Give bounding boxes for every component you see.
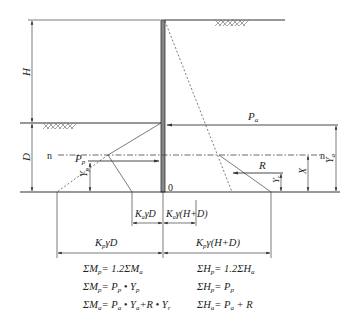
dimension-kp-gamma-hd: Kpγ(H+D) xyxy=(164,237,270,253)
dimension-D: D xyxy=(20,124,32,191)
passive-pressure-diagram-left xyxy=(57,123,161,192)
label-ka-gamma-hd: Kaγ(H+D) xyxy=(165,208,208,220)
dimension-Ya: Ya xyxy=(324,126,337,191)
n-n-line: n n xyxy=(47,150,325,161)
label-kp-gamma-hd: Kpγ(H+D) xyxy=(195,237,240,250)
dimension-ka-gamma-d: KaγD xyxy=(133,208,162,223)
label-Ya: Ya xyxy=(324,153,337,163)
label-Yr: Yr xyxy=(271,175,282,183)
label-kp-gamma-d: KpγD xyxy=(94,237,118,250)
equation-horizontal-3: ΣHa= Pa + R xyxy=(196,299,253,312)
sheet-pile-diagram: H D n n Pa Ya X Pp xyxy=(0,0,358,321)
equation-moment-3: ΣMa= Pa • Ya+R • Yr xyxy=(82,299,171,312)
force-R: R xyxy=(233,159,283,173)
label-origin: 0 xyxy=(168,182,173,193)
dimension-kp-gamma-d: KpγD xyxy=(58,237,162,253)
dimension-H: H xyxy=(20,21,32,122)
equation-moment-2: ΣMp= Pp • Yp xyxy=(82,281,140,294)
active-pressure-line xyxy=(165,21,232,192)
top-ground-hatch-icon xyxy=(215,20,249,26)
dimension-Yp: Yp xyxy=(78,163,91,191)
label-Pp: Pp xyxy=(74,152,86,166)
sheet-pile-wall xyxy=(161,20,165,192)
equation-horizontal-1: ΣHp= 1.2ΣHa xyxy=(196,263,255,276)
equation-moment-1: ΣMp= 1.2ΣMa xyxy=(82,263,143,276)
equation-horizontal-2: ΣHp= Pp xyxy=(196,281,234,294)
label-Yp: Yp xyxy=(78,167,91,177)
force-Pp: Pp xyxy=(74,152,159,166)
equations-horizontal: ΣHp= 1.2ΣHa ΣHp= Pp ΣHa= Pa + R xyxy=(196,263,255,312)
label-H: H xyxy=(20,67,32,77)
equations-moment: ΣMp= 1.2ΣMa ΣMp= Pp • Yp ΣMa= Pa • Ya+R … xyxy=(82,263,171,312)
extension-lines xyxy=(57,192,271,258)
force-Pa: Pa xyxy=(167,110,338,125)
top-ground-line xyxy=(28,20,285,26)
dimension-X: X xyxy=(297,156,308,191)
dimension-ka-gamma-hd: Kaγ(H+D) xyxy=(164,208,208,223)
dredge-hatch-icon xyxy=(43,123,77,129)
label-ka-gamma-d: KaγD xyxy=(134,208,157,220)
label-X: X xyxy=(297,167,308,175)
label-R: R xyxy=(258,159,266,171)
dredge-line xyxy=(20,123,161,129)
label-Pa: Pa xyxy=(247,110,259,124)
dimension-Yr: Yr xyxy=(271,174,282,191)
label-n-left: n xyxy=(47,150,52,161)
label-D: D xyxy=(20,153,32,162)
